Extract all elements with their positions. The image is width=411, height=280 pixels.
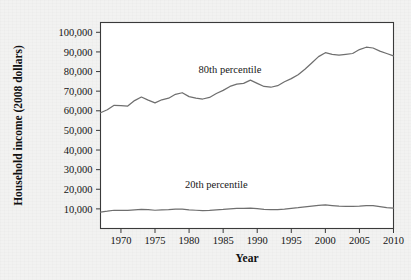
figure-container: 10,00020,00030,00040,00050,00060,00070,0… [0, 0, 411, 280]
y-tick-label: 60,000 [64, 105, 93, 116]
x-tick-label: 1990 [247, 235, 268, 246]
y-axis-title: Household income (2008 dollars) [12, 45, 25, 206]
y-tick-label: 40,000 [64, 145, 93, 156]
y-axis-tick-labels: 10,00020,00030,00040,00050,00060,00070,0… [58, 27, 92, 215]
x-tick-label: 1975 [145, 235, 166, 246]
y-tick-label: 50,000 [64, 125, 93, 136]
x-axis-ticks [121, 229, 394, 234]
y-tick-label: 70,000 [64, 86, 93, 97]
y-tick-label: 10,000 [64, 204, 93, 215]
x-tick-label: 1970 [110, 235, 131, 246]
x-tick-label: 2010 [383, 235, 404, 246]
x-tick-label: 1995 [281, 235, 302, 246]
y-tick-label: 80,000 [64, 66, 93, 77]
income-percentile-line-chart: 10,00020,00030,00040,00050,00060,00070,0… [0, 0, 411, 280]
x-tick-label: 2000 [315, 235, 336, 246]
x-tick-label: 1980 [179, 235, 200, 246]
series-annotation: 20th percentile [185, 179, 248, 190]
x-tick-label: 2005 [349, 235, 370, 246]
y-tick-label: 30,000 [64, 164, 93, 175]
y-tick-label: 100,000 [58, 27, 92, 38]
series-annotation: 80th percentile [199, 64, 262, 75]
y-tick-label: 20,000 [64, 184, 93, 195]
x-axis-title: Year [236, 252, 259, 264]
x-tick-label: 1985 [213, 235, 234, 246]
y-tick-label: 90,000 [64, 47, 93, 58]
x-axis-tick-labels: 197019751980198519901995200020052010 [110, 235, 404, 246]
y-axis-ticks [96, 32, 101, 209]
